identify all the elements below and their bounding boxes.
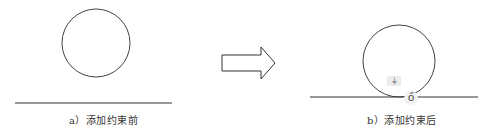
circle-after: [363, 25, 435, 97]
arrow-right-icon: [222, 47, 275, 79]
fix-constraint-icon: ⏚: [387, 76, 401, 86]
caption-before: a）添加约束前: [69, 112, 138, 127]
circle-before: [62, 9, 130, 77]
tangent-constraint-icon: ő: [404, 91, 418, 105]
caption-after: b）添加约束后: [367, 112, 437, 127]
